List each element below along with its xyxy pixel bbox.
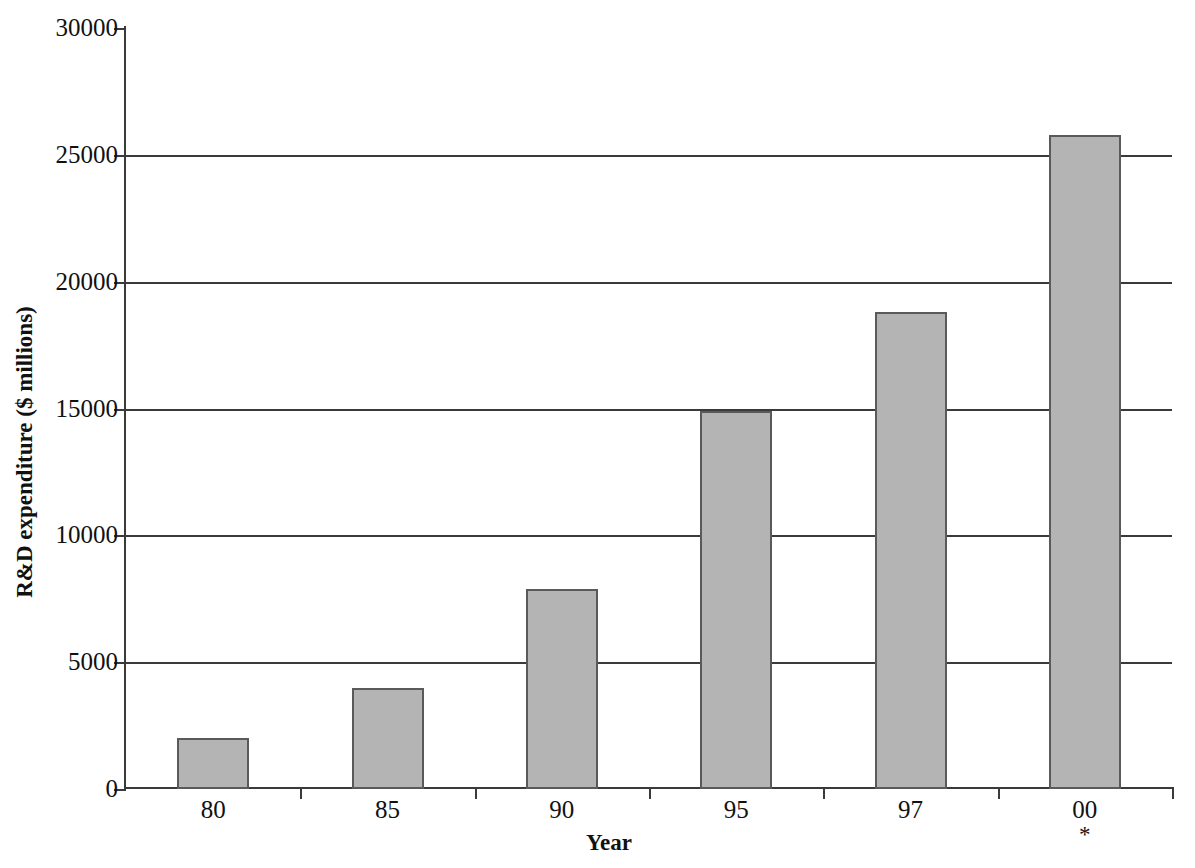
x-axis-tick-label-text: 85 xyxy=(375,796,400,823)
x-axis-title: Year xyxy=(86,830,1132,856)
bar xyxy=(875,312,947,789)
y-axis-title-text: R&D expenditure ($ millions) xyxy=(12,306,38,598)
x-axis-tick-label: 85 xyxy=(300,797,474,823)
bar xyxy=(700,411,772,789)
x-axis-tick xyxy=(1172,787,1174,799)
y-axis-line xyxy=(124,26,126,791)
y-axis-tick-label: 5000 xyxy=(68,649,118,674)
x-axis-tick-label-text: 95 xyxy=(724,796,749,823)
y-axis-tick-label: 15000 xyxy=(56,396,119,421)
y-axis-tick-label: 25000 xyxy=(56,142,119,167)
x-axis-tick-label-text: 00 xyxy=(1072,796,1097,823)
x-axis-tick-label: 80 xyxy=(126,797,300,823)
x-axis-tick-label-text: 97 xyxy=(898,796,923,823)
gridline xyxy=(126,409,1172,411)
gridline xyxy=(126,282,1172,284)
bar xyxy=(177,738,249,789)
y-axis-tick-label: 20000 xyxy=(56,269,119,294)
y-axis-tick-label: 0 xyxy=(106,776,119,801)
bar xyxy=(352,688,424,789)
x-axis-tick-label: 97 xyxy=(823,797,997,823)
gridline xyxy=(126,662,1172,664)
x-axis-tick-label: 90 xyxy=(475,797,649,823)
bar xyxy=(526,589,598,789)
x-axis-tick-label: 95 xyxy=(649,797,823,823)
y-axis-tick-label: 10000 xyxy=(56,522,119,547)
x-axis-tick-label-text: 80 xyxy=(201,796,226,823)
bar xyxy=(1049,135,1121,789)
y-axis-title: R&D expenditure ($ millions) xyxy=(8,262,42,642)
y-axis-tick-label: 30000 xyxy=(56,15,119,40)
gridline xyxy=(126,535,1172,537)
gridline xyxy=(126,155,1172,157)
chart-figure: 050001000015000200002500030000 808590959… xyxy=(0,0,1195,868)
x-axis-tick-label-text: 90 xyxy=(549,796,574,823)
